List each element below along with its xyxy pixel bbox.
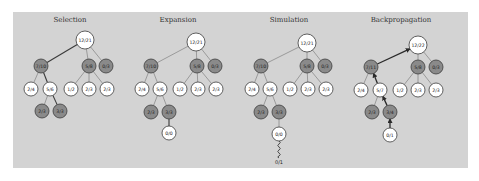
tree-node: 7/10 — [254, 59, 268, 73]
node-label: 0/1 — [386, 133, 393, 138]
node-label: 3/3 — [275, 110, 282, 115]
tree-node: 12/21 — [187, 33, 205, 51]
node-label: 2/3 — [257, 110, 264, 115]
tree-node: 7/10 — [144, 59, 158, 73]
tree-node: 2/4 — [135, 82, 149, 96]
node-label: 0/3 — [321, 64, 328, 69]
tree-node: 0/0 — [272, 127, 286, 141]
node-label: 3/3 — [56, 109, 63, 114]
tree-node: 1/2 — [173, 82, 187, 96]
tree-node: 5/6 — [43, 82, 57, 96]
tree-node: 5/6 — [153, 82, 167, 96]
node-label: 2/4 — [357, 88, 364, 93]
node-label: 12/22 — [411, 43, 424, 48]
tree-node: 5/8 — [82, 59, 96, 73]
node-label: 2/3 — [304, 87, 311, 92]
node-label: 5/7 — [376, 88, 383, 93]
node-label: 1/2 — [396, 88, 403, 93]
tree-node: 0/3 — [429, 60, 443, 74]
node-label: 12/21 — [189, 40, 202, 45]
node-label: 12/21 — [78, 38, 91, 43]
tree-node: 2/3 — [35, 104, 49, 118]
mcts-diagram: Selection12/217/105/80/32/45/61/22/32/32… — [0, 0, 479, 181]
tree-node: 1/2 — [64, 82, 78, 96]
tree-node: 12/22 — [409, 36, 427, 54]
tree-node: 7/11 — [364, 60, 378, 74]
node-label: 7/10 — [256, 64, 266, 69]
tree-node: 2/3 — [254, 105, 268, 119]
node-label: 3/4 — [386, 110, 393, 115]
node-label: 2/3 — [147, 110, 154, 115]
tree-node: 2/4 — [24, 82, 38, 96]
tree-node: 12/21 — [298, 34, 316, 52]
node-label: 3/3 — [165, 110, 172, 115]
tree-node: 12/21 — [76, 31, 94, 49]
node-label: 5/8 — [193, 64, 200, 69]
tree-node: 5/8 — [300, 59, 314, 73]
node-label: 5/8 — [85, 64, 92, 69]
tree-node: 2/3 — [82, 82, 96, 96]
tree-node: 0/0 — [162, 126, 176, 140]
tree-node: 1/2 — [393, 83, 407, 97]
tree-node: 5/6 — [263, 82, 277, 96]
tree-node: 5/8 — [190, 59, 204, 73]
node-label: 7/10 — [36, 64, 46, 69]
node-label: 0/0 — [165, 131, 172, 136]
node-label: 0/3 — [211, 64, 218, 69]
tree-node: 0/3 — [99, 59, 113, 73]
tree-node: 3/4 — [383, 105, 397, 119]
node-label: 2/3 — [368, 110, 375, 115]
node-label: 2/4 — [27, 87, 34, 92]
tree-node: 5/7 — [373, 83, 387, 97]
node-label: 5/8 — [303, 64, 310, 69]
phase-title: Selection — [53, 16, 87, 24]
node-label: 0/0 — [275, 132, 282, 137]
tree-node: 2/3 — [319, 82, 333, 96]
tree-node: 2/3 — [301, 82, 315, 96]
node-label: 12/21 — [300, 41, 313, 46]
node-label: 2/3 — [212, 87, 219, 92]
node-label: 2/3 — [85, 87, 92, 92]
node-label: 2/3 — [194, 87, 201, 92]
node-label: 7/11 — [366, 65, 376, 70]
node-label: 5/8 — [414, 65, 421, 70]
tree-node: 2/3 — [429, 83, 443, 97]
phase-title: Simulation — [270, 16, 309, 24]
node-label: 2/3 — [38, 109, 45, 114]
node-label: 7/10 — [146, 64, 156, 69]
tree-node: 0/1 — [383, 128, 397, 142]
tree-node: 7/10 — [34, 59, 48, 73]
tree-node: 0/3 — [318, 59, 332, 73]
node-label: 2/4 — [138, 87, 145, 92]
tree-node: 0/3 — [208, 59, 222, 73]
phase-title: Backpropagation — [371, 16, 432, 24]
tree-node: 3/3 — [162, 105, 176, 119]
node-label: 0/3 — [102, 64, 109, 69]
tree-node: 2/3 — [209, 82, 223, 96]
node-label: 2/3 — [432, 88, 439, 93]
tree-node: 5/8 — [411, 60, 425, 74]
tree-node: 2/3 — [144, 105, 158, 119]
tree-node: 2/3 — [365, 105, 379, 119]
rollout-result: 0/1 — [275, 159, 283, 165]
tree-node: 3/3 — [272, 105, 286, 119]
tree-node: 2/4 — [245, 82, 259, 96]
node-label: 2/3 — [103, 87, 110, 92]
tree-node: 1/2 — [283, 82, 297, 96]
node-label: 1/2 — [67, 87, 74, 92]
node-label: 2/3 — [414, 88, 421, 93]
tree-node: 2/3 — [191, 82, 205, 96]
node-label: 2/3 — [322, 87, 329, 92]
node-label: 2/4 — [248, 87, 255, 92]
tree-node: 3/3 — [53, 104, 67, 118]
node-label: 5/6 — [266, 87, 273, 92]
tree-node: 2/4 — [354, 83, 368, 97]
phase-title: Expansion — [160, 16, 197, 24]
tree-node: 2/3 — [100, 82, 114, 96]
node-label: 1/2 — [176, 87, 183, 92]
node-label: 1/2 — [286, 87, 293, 92]
tree-node: 2/3 — [411, 83, 425, 97]
node-label: 0/3 — [432, 65, 439, 70]
node-label: 5/6 — [156, 87, 163, 92]
node-label: 5/6 — [46, 87, 53, 92]
